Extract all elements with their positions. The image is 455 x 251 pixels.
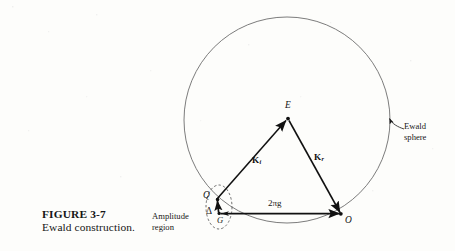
amplitude-region-label-line2: region bbox=[152, 222, 174, 232]
figure-caption-label: FIGURE bbox=[42, 208, 87, 220]
ewald-sphere-label-line2: sphere bbox=[404, 132, 426, 142]
ewald-sphere-callout-arrow bbox=[390, 119, 405, 130]
vector-delta-line bbox=[217, 201, 218, 213]
point-O-dot bbox=[339, 212, 343, 216]
ewald-sphere-label: Ewald sphere bbox=[404, 121, 426, 142]
point-Q-dot bbox=[216, 198, 220, 202]
point-label-G: G bbox=[217, 216, 223, 226]
point-label-Q: Q bbox=[203, 190, 210, 201]
amplitude-region-label-line1: Amplitude bbox=[152, 211, 189, 221]
vector-label-ki-subscript: i bbox=[259, 158, 261, 165]
ewald-sphere-label-line1: Ewald bbox=[404, 121, 426, 131]
vector-label-2pig: 2πg bbox=[268, 198, 282, 208]
figure-caption-heading: FIGURE3-7 bbox=[42, 208, 158, 220]
figure-container: FIGURE3-7 Ewald construction. Amplitude … bbox=[0, 0, 455, 251]
vector-label-delta: Δ bbox=[206, 206, 212, 217]
point-E-dot bbox=[286, 117, 290, 121]
figure-caption-number: 3-7 bbox=[90, 208, 106, 220]
point-label-E: E bbox=[285, 100, 291, 111]
vector-kr-line bbox=[289, 121, 340, 213]
vector-label-ki: Ki bbox=[252, 155, 261, 166]
amplitude-region-label: Amplitude region bbox=[152, 211, 189, 232]
point-label-O: O bbox=[345, 215, 352, 226]
vector-label-kr-subscript: r bbox=[321, 155, 323, 162]
vector-label-2pig-text: 2πg bbox=[268, 198, 282, 208]
figure-caption: FIGURE3-7 Ewald construction. bbox=[42, 208, 158, 233]
figure-caption-title: Ewald construction. bbox=[42, 221, 158, 233]
vector-label-kr: Kr bbox=[314, 152, 324, 163]
